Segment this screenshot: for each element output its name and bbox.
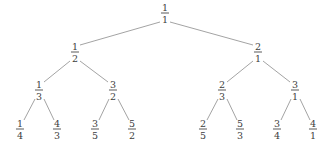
fraction-denominator: 4	[16, 129, 24, 140]
fraction-numerator: 5	[128, 119, 136, 129]
fraction-numerator: 1	[71, 42, 79, 52]
fraction-numerator: 3	[273, 119, 281, 129]
tree-node-n0: 11	[161, 3, 169, 24]
fraction-numerator: 3	[291, 80, 299, 90]
fraction-numerator: 2	[254, 42, 262, 52]
fraction-denominator: 3	[35, 90, 43, 101]
tree-node-n0RLL: 25	[199, 119, 207, 140]
fraction-numerator: 5	[236, 119, 244, 129]
tree-node-n0LLR: 43	[53, 119, 61, 140]
fraction-denominator: 1	[309, 129, 317, 140]
fraction-denominator: 2	[71, 52, 79, 63]
fraction-denominator: 3	[53, 129, 61, 140]
fraction-numerator: 1	[161, 3, 169, 13]
fraction-numerator: 2	[199, 119, 207, 129]
fraction-denominator: 4	[273, 129, 281, 140]
tree-node-n0RR: 31	[291, 80, 299, 101]
fraction-numerator: 4	[53, 119, 61, 129]
fraction-denominator: 3	[218, 90, 226, 101]
fraction-denominator: 2	[109, 90, 117, 101]
fraction-denominator: 5	[199, 129, 207, 140]
tree-node-n0R: 21	[254, 42, 262, 63]
fraction-denominator: 2	[128, 129, 136, 140]
fraction-numerator: 1	[35, 80, 43, 90]
fraction-denominator: 1	[161, 13, 169, 24]
tree-node-n0LLL: 14	[16, 119, 24, 140]
tree-node-n0LRL: 35	[91, 119, 99, 140]
tree-node-n0RRL: 34	[273, 119, 281, 140]
fraction-numerator: 4	[309, 119, 317, 129]
fraction-numerator: 1	[16, 119, 24, 129]
calkin-wilf-tree-figure: 111221133223311443355225533441	[0, 0, 333, 146]
tree-node-n0RLR: 53	[236, 119, 244, 140]
tree-node-n0LR: 32	[109, 80, 117, 101]
tree-node-layer: 111221133223311443355225533441	[0, 0, 333, 146]
fraction-denominator: 5	[91, 129, 99, 140]
fraction-numerator: 2	[218, 80, 226, 90]
tree-node-n0LRR: 52	[128, 119, 136, 140]
fraction-denominator: 3	[236, 129, 244, 140]
tree-node-n0LL: 13	[35, 80, 43, 101]
fraction-denominator: 1	[291, 90, 299, 101]
tree-node-n0RRR: 41	[309, 119, 317, 140]
fraction-numerator: 3	[91, 119, 99, 129]
tree-node-n0L: 12	[71, 42, 79, 63]
tree-node-n0RL: 23	[218, 80, 226, 101]
fraction-numerator: 3	[109, 80, 117, 90]
fraction-denominator: 1	[254, 52, 262, 63]
